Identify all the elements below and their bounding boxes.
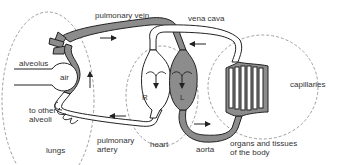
circulation-diagram: pulmonary vein vena cava alveolus air to…: [0, 0, 338, 165]
label-organs-1: organs and tissues: [230, 139, 297, 148]
label-vena-cava: vena cava: [188, 14, 224, 23]
label-air: air: [60, 73, 69, 82]
label-pulmonary-vein: pulmonary vein: [95, 11, 149, 20]
vena-cava: [150, 25, 242, 62]
heart: [141, 50, 197, 118]
label-pulmonary-artery-2: artery: [97, 145, 117, 154]
label-right-chamber: R: [142, 93, 148, 102]
label-left-chamber: L: [180, 93, 184, 102]
label-lungs: lungs: [46, 146, 65, 155]
capillary-bed: [226, 62, 268, 116]
label-to-other-alveoli-2: alveoli: [29, 115, 52, 124]
label-heart: heart: [150, 140, 168, 149]
label-pulmonary-artery-1: pulmonary: [97, 136, 134, 145]
label-alveolus: alveolus: [19, 59, 48, 68]
label-to-other-alveoli-1: to other: [29, 106, 56, 115]
label-aorta: aorta: [196, 145, 214, 154]
label-capillaries: capillaries: [290, 80, 326, 89]
label-organs-2: of the body: [230, 148, 270, 157]
